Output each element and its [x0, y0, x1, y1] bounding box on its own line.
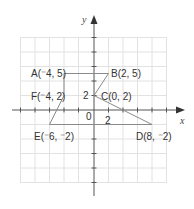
- x-tick-label: 2: [105, 115, 111, 126]
- y-axis-label: y: [81, 14, 87, 25]
- y-axis-arrow-icon: [91, 15, 98, 24]
- vertex-label-d: D(8, ⁻2): [136, 131, 172, 142]
- x-axis-arrow-icon: [176, 107, 185, 114]
- origin-label: 0: [86, 111, 92, 122]
- vertex-label-c: C(0, 2): [101, 91, 132, 102]
- coordinate-plane: y x 0 2 2 A(⁻4, 5) B(2, 5) C(0, 2) D(8, …: [0, 0, 194, 209]
- vertex-label-e: E(⁻6, ⁻2): [34, 131, 74, 142]
- x-axis: [12, 108, 180, 113]
- y-tick-label: 2: [83, 90, 89, 101]
- vertex-label-b: B(2, 5): [111, 68, 141, 79]
- vertex-label-a: A(⁻4, 5): [31, 68, 66, 79]
- vertex-label-f: F(⁻4, 2): [31, 91, 65, 102]
- x-axis-label: x: [179, 115, 185, 126]
